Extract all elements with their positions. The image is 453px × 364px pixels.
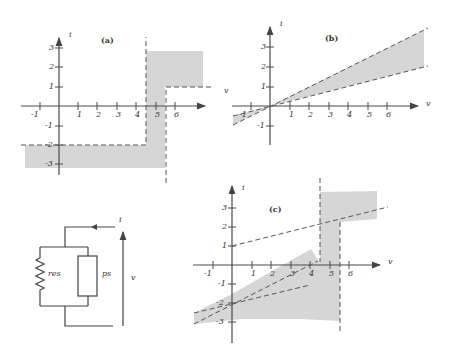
panel-b-x-tick-label: 6 [386, 110, 391, 119]
ps-element-box [78, 256, 97, 296]
circuit-element-label: ps [102, 269, 111, 278]
panel-a-y-tick-label: 3 [49, 43, 54, 52]
panel-c-y-tick-label: -1 [218, 279, 226, 288]
panel-a-y-axis-label: i [69, 30, 72, 39]
circuit-resistor-label: res [48, 269, 61, 278]
panel-b-x-tick-label: 3 [328, 110, 333, 119]
panel-a-y-tick-label: 2 [48, 62, 54, 71]
panel-a-x-tick-label: 6 [174, 110, 179, 119]
panel-c-x-axis-label: v [388, 257, 393, 266]
panel-a-x-axis-label: v [224, 86, 229, 95]
panel-c-upper-line [232, 207, 388, 246]
panel-a-x-tick-label: 1 [77, 110, 82, 119]
panel-b-x-tick-label: -1 [239, 110, 247, 119]
panel-c-y-axis-label: i [242, 183, 245, 192]
panel-b-y-tick-label: 3 [261, 42, 266, 51]
panel-b-y-axis-label: i [280, 19, 283, 28]
panel-c: -1 1 2 3 4 5 6 3 2 1 -1 -2 -3 i v (c) [193, 178, 393, 343]
panel-c-y-tick-label: -3 [216, 317, 224, 326]
panel-a-boundary-right [166, 87, 214, 183]
panel-a-x-tick-label: 2 [95, 110, 101, 119]
panel-c-x-tick-label: 1 [251, 269, 256, 278]
panel-c-x-tick-label: 5 [329, 269, 334, 278]
panel-b-x-tick-label: 2 [307, 110, 313, 119]
panel-c-y-tick-label: -2 [216, 298, 224, 307]
panel-b-x-tick-label: 5 [367, 110, 372, 119]
panel-a-boundary-left [21, 37, 146, 145]
panel-a-title: (a) [101, 35, 114, 45]
circuit-diagram: i v res ps [36, 215, 136, 326]
panel-c-x-tick-label: 6 [348, 269, 353, 278]
diagram-canvas: -1 1 2 3 4 5 6 3 2 1 -1 -2 -3 i v (a) [0, 0, 453, 364]
panel-c-x-tick-label: 4 [308, 269, 314, 278]
circuit-voltage-label: v [131, 273, 136, 282]
circuit-top-wire [65, 227, 115, 247]
panel-a-y-tick-label: -1 [45, 121, 53, 130]
panel-c-y-tick-label: 3 [222, 203, 227, 212]
panel-b-y-tick-label: -1 [257, 121, 265, 130]
panel-a: -1 1 2 3 4 5 6 3 2 1 -1 -2 -3 i v (a) [21, 30, 229, 183]
panel-b-x-axis-label: v [426, 99, 431, 108]
panel-c-y-tick-label: 2 [221, 222, 227, 231]
panel-b-y-tick-label: 1 [261, 82, 266, 91]
panel-b: -1 1 2 3 4 5 6 3 2 1 -1 i v (b) [232, 19, 431, 145]
resistor-icon [36, 247, 44, 306]
panel-a-y-tick-label: 1 [49, 82, 54, 91]
panel-c-x-tick-label: 2 [269, 269, 275, 278]
panel-c-title: (c) [269, 204, 282, 214]
panel-a-y-tick-label: -3 [45, 159, 53, 168]
circuit-current-label: i [119, 215, 122, 224]
panel-a-x-tick-label: -1 [31, 110, 39, 119]
panel-b-y-tick-label: 2 [260, 62, 266, 71]
panel-c-y-tick-label: 1 [222, 241, 227, 250]
circuit-bottom-wire [65, 306, 113, 326]
panel-b-title: (b) [325, 33, 338, 43]
panel-c-x-tick-label: -1 [204, 269, 212, 278]
panel-b-x-tick-label: 1 [289, 110, 294, 119]
panel-b-x-tick-label: 4 [346, 110, 352, 119]
panel-a-x-tick-label: 4 [134, 110, 140, 119]
panel-a-x-tick-label: 5 [155, 110, 160, 119]
current-arrow-icon [91, 224, 97, 230]
panel-a-x-tick-label: 3 [116, 110, 121, 119]
